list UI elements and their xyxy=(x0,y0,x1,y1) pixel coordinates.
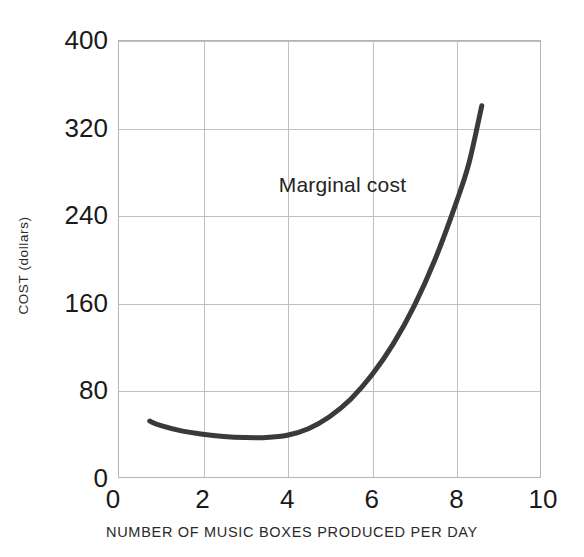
x-tick-label: 10 xyxy=(529,486,558,512)
gridline-vertical xyxy=(373,41,374,477)
marginal-cost-annotation: Marginal cost xyxy=(279,173,406,197)
x-tick-label: 8 xyxy=(449,486,463,512)
gridline-vertical xyxy=(288,41,289,477)
y-tick-label: 400 xyxy=(65,27,108,53)
gridline-horizontal xyxy=(119,304,540,305)
gridline-horizontal xyxy=(119,391,540,392)
y-axis-title: COST (dollars) xyxy=(16,186,31,346)
plot-area xyxy=(118,40,541,478)
marginal-cost-chart: 400 320 240 160 80 0 0 2 4 6 8 10 COST (… xyxy=(0,0,584,557)
x-tick-label: 4 xyxy=(280,486,294,512)
x-tick-label: 6 xyxy=(365,486,379,512)
y-tick-label: 80 xyxy=(79,377,108,403)
gridline-vertical xyxy=(457,41,458,477)
x-tick-label: 0 xyxy=(106,486,120,512)
y-tick-label: 240 xyxy=(65,202,108,228)
x-axis-title: NUMBER OF MUSIC BOXES PRODUCED PER DAY xyxy=(0,524,584,540)
x-tick-label: 2 xyxy=(195,486,209,512)
y-tick-label: 320 xyxy=(65,115,108,141)
gridline-horizontal xyxy=(119,41,540,42)
y-tick-label: 160 xyxy=(65,290,108,316)
gridline-horizontal xyxy=(119,129,540,130)
gridline-vertical xyxy=(204,41,205,477)
gridline-horizontal xyxy=(119,216,540,217)
